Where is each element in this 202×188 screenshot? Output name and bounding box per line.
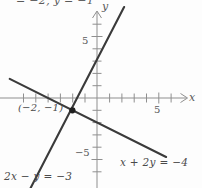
figure-canvas: = −2, y = −1 y x 5 −5 5 (−2, −1) 2x − y … [0,0,202,188]
y-axis [92,11,103,188]
x-axis-tick-label-5: 5 [154,105,160,115]
equation-label-line-2: x + 2y = −4 [120,157,188,168]
intersection-point-label: (−2, −1) [18,103,63,113]
x-axis-label: x [189,92,195,103]
line-x-plus-2y-equals-minus-4 [10,79,166,157]
equation-label-line-1: 2x − y = −3 [4,171,72,182]
intersection-point-marker [69,107,75,113]
y-axis-label: y [102,1,108,12]
y-axis-tick-label-5: 5 [82,36,88,46]
y-axis-tick-label-minus-5: −5 [75,148,89,158]
caption-top: = −2, y = −1 [16,0,94,6]
